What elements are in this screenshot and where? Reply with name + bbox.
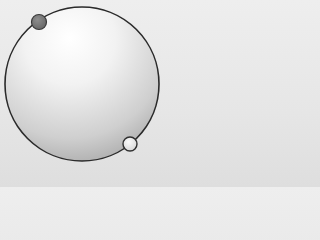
light-point-marker [123, 137, 137, 151]
diagram-canvas [0, 0, 197, 187]
sphere-diagram [0, 0, 197, 187]
sphere [5, 7, 159, 161]
dark-point-marker [32, 15, 47, 30]
